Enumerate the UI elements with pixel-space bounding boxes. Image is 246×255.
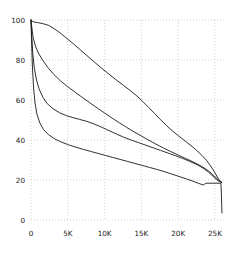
x-tick-label-3: 15K bbox=[134, 229, 148, 238]
y-tick-label-3: 60 bbox=[16, 96, 26, 105]
x-tick-label-0: 0 bbox=[29, 229, 34, 238]
chart-figure: 020406080100 05K10K15K20K25K bbox=[0, 0, 246, 255]
y-tick-label-4: 80 bbox=[16, 56, 26, 65]
y-tick-label-5: 100 bbox=[11, 16, 25, 25]
y-tick-label-2: 40 bbox=[16, 136, 26, 145]
x-tick-label-2: 10K bbox=[98, 229, 112, 238]
y-tick-label-0: 0 bbox=[20, 216, 25, 225]
y-tick-label-1: 20 bbox=[16, 176, 26, 185]
plot-background bbox=[0, 0, 246, 255]
x-tick-label-4: 20K bbox=[171, 229, 185, 238]
line-chart: 020406080100 05K10K15K20K25K bbox=[0, 0, 246, 255]
x-tick-label-5: 25K bbox=[208, 229, 222, 238]
x-tick-label-1: 5K bbox=[63, 229, 73, 238]
